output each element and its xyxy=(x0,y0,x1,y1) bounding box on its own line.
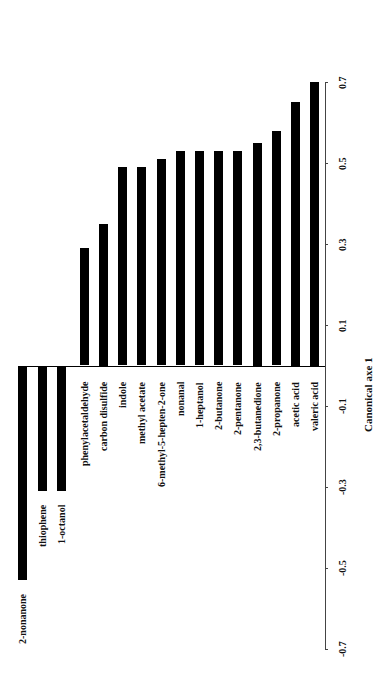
bar xyxy=(310,82,319,366)
category-label: acetic acid xyxy=(291,382,301,427)
axis-tick-label: 0.1 xyxy=(338,319,348,332)
bar xyxy=(195,151,204,366)
category-label: 2,3-butanedione xyxy=(253,382,263,451)
axis-tick-label: -0.5 xyxy=(338,560,348,576)
bar xyxy=(214,151,223,366)
category-label: 2-propanone xyxy=(272,381,282,435)
axis-tick xyxy=(325,487,328,488)
axis-title: Canonical axe 1 xyxy=(363,357,373,432)
axis-tick xyxy=(325,649,328,650)
axis-tick xyxy=(325,163,328,164)
axis-tick-label: 0.3 xyxy=(338,238,348,251)
category-label: 2-nonanone xyxy=(18,594,28,644)
bar xyxy=(176,151,185,366)
axis-tick xyxy=(325,568,328,569)
axis-tick-label: 0.5 xyxy=(338,157,348,170)
category-label: 6-methyl-5-hepten-2-one xyxy=(157,382,167,487)
category-label: methyl acetate xyxy=(137,382,147,444)
bar xyxy=(291,102,300,365)
category-label: 1-heptanol xyxy=(195,382,205,428)
category-label: phenylacetaldehyde xyxy=(80,381,90,465)
bar xyxy=(157,159,166,366)
category-label: 1-octanol xyxy=(57,505,67,544)
category-label: thiophene xyxy=(38,505,48,547)
axis-tick-label: -0.3 xyxy=(338,479,348,495)
category-label: 2-butanone xyxy=(214,381,224,429)
category-label: indole xyxy=(118,381,128,407)
bar xyxy=(253,143,262,366)
axis-tick-label: -0.1 xyxy=(338,398,348,414)
category-label: carbon disulfide xyxy=(99,381,109,450)
category-label: 2-pentanone xyxy=(233,382,243,435)
bar xyxy=(38,366,47,492)
bar xyxy=(118,167,127,365)
axis-tick xyxy=(325,244,328,245)
axis-tick-label: 0.7 xyxy=(338,76,348,89)
canonical-axis-bar-chart: 2-nonanonethiophene1-octanolphenylacetal… xyxy=(0,0,387,695)
axis-tick xyxy=(325,406,328,407)
bar xyxy=(99,224,108,366)
bar xyxy=(272,131,281,366)
axis-tick xyxy=(325,325,328,326)
value-axis-line xyxy=(325,82,326,649)
bar xyxy=(57,366,66,492)
bar xyxy=(80,248,89,365)
axis-tick xyxy=(325,82,328,83)
bar xyxy=(233,151,242,366)
axis-tick-label: -0.7 xyxy=(338,641,348,657)
category-label: valeric acid xyxy=(310,381,320,430)
category-label: nonanal xyxy=(176,381,186,415)
bar xyxy=(18,366,27,581)
bar xyxy=(137,167,146,365)
